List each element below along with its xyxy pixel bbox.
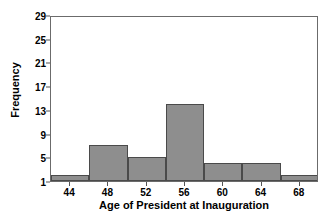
x-axis-tick-label: 44 bbox=[64, 187, 75, 198]
y-axis-tick-label: 21 bbox=[35, 58, 46, 69]
y-axis-title-text: Frequency bbox=[9, 62, 21, 118]
histogram-figure: Frequency 1591317212529 44485256606468 A… bbox=[0, 0, 326, 220]
y-axis-tick-label: 17 bbox=[35, 82, 46, 93]
plot-area bbox=[50, 16, 318, 182]
y-axis-ticks: 1591317212529 bbox=[22, 0, 50, 220]
histogram-bar bbox=[51, 175, 89, 181]
x-axis-tick-label: 56 bbox=[178, 187, 189, 198]
x-axis-tick-mark bbox=[261, 182, 262, 186]
x-axis-tick-label: 60 bbox=[217, 187, 228, 198]
x-axis-tick-label: 68 bbox=[293, 187, 304, 198]
y-axis-tick-label: 29 bbox=[35, 11, 46, 22]
x-axis-tick-mark bbox=[146, 182, 147, 186]
histogram-bar bbox=[242, 163, 280, 181]
x-axis-tick-mark bbox=[107, 182, 108, 186]
bar-series bbox=[51, 17, 317, 181]
x-axis-tick-mark bbox=[69, 182, 70, 186]
y-axis-tick-label: 13 bbox=[35, 105, 46, 116]
histogram-bar bbox=[89, 145, 127, 181]
histogram-bar bbox=[128, 157, 166, 181]
x-axis-tick-label: 48 bbox=[102, 187, 113, 198]
histogram-bar bbox=[166, 104, 204, 181]
histogram-bar bbox=[204, 163, 242, 181]
y-axis-tick-label: 25 bbox=[35, 34, 46, 45]
x-axis-title: Age of President at Inauguration bbox=[50, 199, 318, 211]
histogram-bar bbox=[281, 175, 318, 181]
x-axis-tick-mark bbox=[299, 182, 300, 186]
x-axis-tick-mark bbox=[222, 182, 223, 186]
x-axis-tick-label: 64 bbox=[255, 187, 266, 198]
x-axis-tick-label: 52 bbox=[140, 187, 151, 198]
x-axis-tick-mark bbox=[184, 182, 185, 186]
